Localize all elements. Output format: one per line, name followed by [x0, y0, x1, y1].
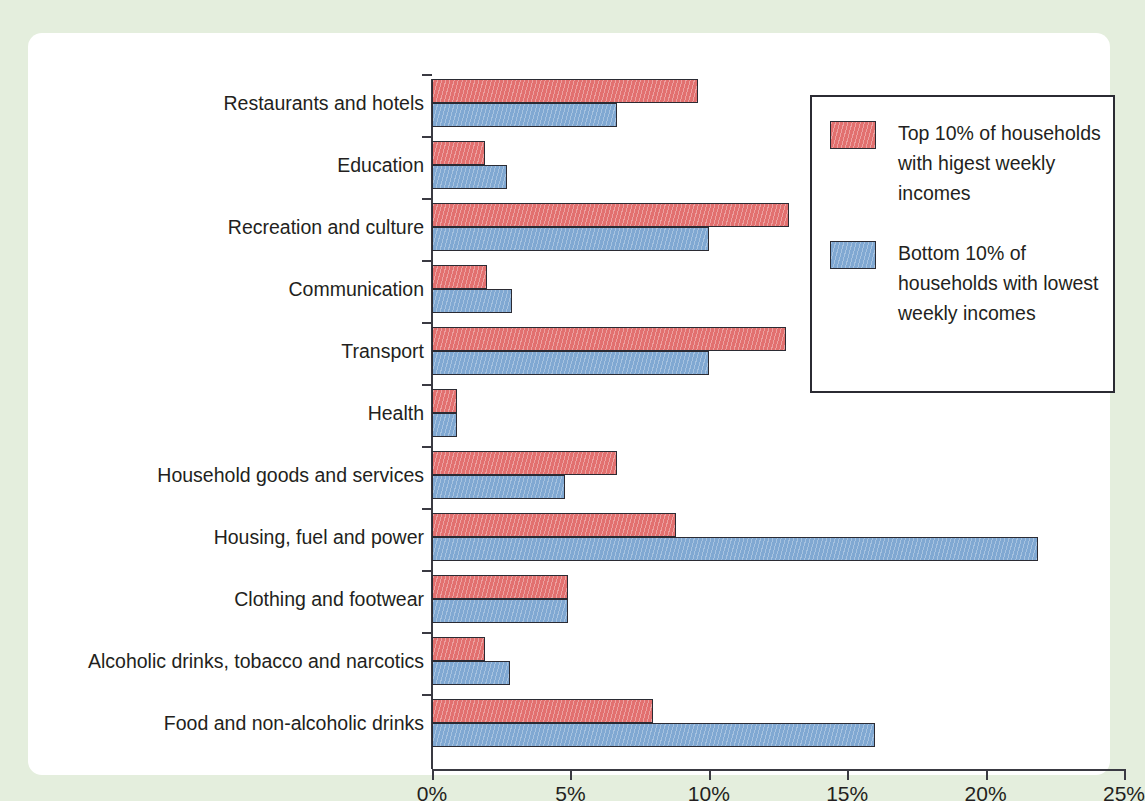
bar-top10 — [432, 637, 485, 661]
x-axis-tick-label: 5% — [555, 782, 585, 801]
bar-top10 — [432, 513, 676, 537]
x-axis-tick-label: 0% — [417, 782, 447, 801]
category-label: Transport — [341, 327, 424, 375]
x-axis-tick — [1124, 769, 1126, 780]
x-axis-tick-label: 20% — [965, 782, 1007, 801]
chart-card: Restaurants and hotelsEducationRecreatio… — [28, 33, 1110, 775]
category-row: Household goods and services — [432, 451, 1124, 499]
bar-bottom10 — [432, 289, 512, 313]
y-axis-tick — [422, 508, 432, 510]
category-label: Clothing and footwear — [234, 575, 424, 623]
x-axis-tick-label: 15% — [826, 782, 868, 801]
category-row: Clothing and footwear — [432, 575, 1124, 623]
bar-bottom10 — [432, 351, 709, 375]
bar-top10 — [432, 575, 568, 599]
bar-bottom10 — [432, 165, 507, 189]
bar-top10 — [432, 451, 617, 475]
category-label: Housing, fuel and power — [214, 513, 424, 561]
bar-bottom10 — [432, 537, 1038, 561]
chart-legend: Top 10% of households with higest weekly… — [810, 95, 1115, 393]
legend-label-top10: Top 10% of households with higest weekly… — [898, 118, 1103, 208]
x-axis-tick — [570, 769, 572, 780]
y-axis-tick — [422, 198, 432, 200]
bar-top10 — [432, 79, 698, 103]
x-axis-tick-label: 25% — [1103, 782, 1145, 801]
x-axis-tick-label: 10% — [688, 782, 730, 801]
category-row: Health — [432, 389, 1124, 437]
y-axis-tick — [422, 384, 432, 386]
bar-bottom10 — [432, 599, 568, 623]
category-row: Alcoholic drinks, tobacco and narcotics — [432, 637, 1124, 685]
legend-entry-top10: Top 10% of households with higest weekly… — [830, 118, 1103, 208]
bar-bottom10 — [432, 661, 510, 685]
bar-top10 — [432, 389, 457, 413]
bar-top10 — [432, 203, 789, 227]
category-label: Health — [368, 389, 424, 437]
y-axis-tick — [422, 570, 432, 572]
legend-label-bottom10: Bottom 10% of households with lowest wee… — [898, 238, 1103, 328]
y-axis-tick — [422, 74, 432, 76]
legend-swatch-red-icon — [830, 121, 876, 149]
x-axis-tick — [432, 769, 434, 780]
y-axis-tick — [422, 260, 432, 262]
bar-bottom10 — [432, 475, 565, 499]
legend-swatch-blue-icon — [830, 241, 876, 269]
y-axis-tick — [422, 694, 432, 696]
y-axis-tick — [422, 632, 432, 634]
category-label: Alcoholic drinks, tobacco and narcotics — [88, 637, 424, 685]
category-label: Recreation and culture — [228, 203, 424, 251]
legend-entry-bottom10: Bottom 10% of households with lowest wee… — [830, 238, 1103, 328]
category-row: Food and non-alcoholic drinks — [432, 699, 1124, 747]
bar-bottom10 — [432, 227, 709, 251]
category-label: Communication — [289, 265, 424, 313]
y-axis-tick — [422, 136, 432, 138]
category-label: Food and non-alcoholic drinks — [164, 699, 424, 747]
x-axis-line — [432, 769, 1124, 771]
y-axis-tick — [422, 322, 432, 324]
category-row: Housing, fuel and power — [432, 513, 1124, 561]
bar-bottom10 — [432, 723, 875, 747]
x-axis-tick — [709, 769, 711, 780]
category-label: Restaurants and hotels — [223, 79, 424, 127]
x-axis-tick — [986, 769, 988, 780]
bar-top10 — [432, 265, 487, 289]
x-axis-tick — [847, 769, 849, 780]
bar-bottom10 — [432, 413, 457, 437]
bar-top10 — [432, 141, 485, 165]
y-axis-tick — [422, 446, 432, 448]
bar-top10 — [432, 699, 653, 723]
category-label: Education — [337, 141, 424, 189]
bar-bottom10 — [432, 103, 617, 127]
category-label: Household goods and services — [157, 451, 424, 499]
bar-top10 — [432, 327, 786, 351]
